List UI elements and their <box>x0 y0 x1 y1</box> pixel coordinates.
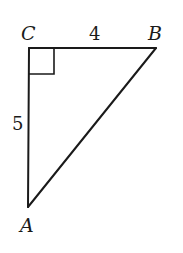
side-ab-hypotenuse <box>28 48 156 207</box>
vertex-label-b: B <box>147 22 162 44</box>
vertex-label-c: C <box>21 22 36 44</box>
vertex-label-a: A <box>18 214 34 236</box>
right-angle-marker <box>29 48 54 74</box>
side-label-cb: 4 <box>89 23 100 44</box>
side-label-ca: 5 <box>12 113 23 134</box>
right-triangle-diagram: C B A 4 5 <box>0 0 183 253</box>
side-ca <box>28 48 29 207</box>
